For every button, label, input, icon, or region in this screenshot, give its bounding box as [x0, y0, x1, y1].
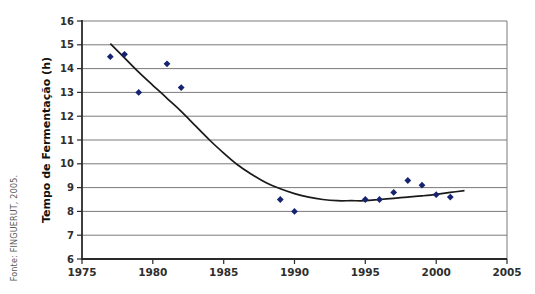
scatter-point: [447, 194, 454, 201]
y-tick-label: 15: [60, 39, 74, 50]
fermentation-time-chart: Fonte: FINGUERUT, 2005. Tempo de Ferment…: [0, 0, 535, 294]
y-tick-label: 12: [60, 111, 74, 122]
scatter-point: [404, 177, 411, 184]
y-tick-label: 6: [67, 254, 74, 265]
x-tick-label: 2000: [422, 266, 451, 278]
y-tick-label: 7: [67, 230, 74, 241]
scatter-point: [277, 196, 284, 203]
x-tick-label: 1980: [138, 266, 167, 278]
x-tick-label: 1990: [280, 266, 309, 278]
x-tick-label: 1975: [67, 266, 96, 278]
y-tick-label: 9: [67, 182, 74, 193]
x-tick-label: 1985: [209, 266, 238, 278]
y-tick-label: 13: [60, 87, 74, 98]
scatter-point: [433, 191, 440, 198]
scatter-point: [135, 89, 142, 96]
y-tick-label: 8: [67, 206, 74, 217]
y-tick-label: 16: [60, 16, 74, 27]
y-tick-label: 10: [60, 158, 74, 169]
chart-canvas: 6789101112131415161975198019851990199520…: [0, 0, 535, 294]
y-tick-label: 14: [60, 63, 74, 74]
scatter-point: [376, 196, 383, 203]
y-tick-label: 11: [60, 135, 74, 146]
scatter-point: [390, 189, 397, 196]
x-tick-label: 1995: [351, 266, 380, 278]
scatter-point: [164, 60, 171, 67]
scatter-point: [291, 208, 298, 215]
scatter-point: [107, 53, 114, 60]
scatter-point: [178, 84, 185, 91]
scatter-point: [362, 196, 369, 203]
x-tick-label: 2005: [492, 266, 521, 278]
trend-line: [110, 44, 464, 201]
